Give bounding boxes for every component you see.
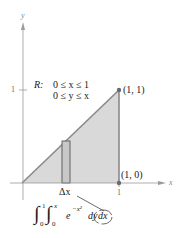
x-axis-arrow-icon — [158, 181, 166, 185]
y-axis-label: y — [21, 12, 25, 20]
region-inequality-y: 0 ≤ y ≤ x — [53, 91, 89, 101]
dx-differential: dx — [98, 211, 107, 221]
representative-rectangle — [62, 141, 70, 183]
point-1-0 — [117, 181, 121, 185]
region-label: R: — [34, 80, 43, 90]
x-tick-label: 1 — [117, 189, 121, 197]
delta-x-label: Δx — [59, 187, 70, 197]
y-axis-arrow-icon — [21, 22, 25, 30]
point-label-1-0: (1, 0) — [121, 170, 143, 180]
outer-lower-limit: 0 — [40, 221, 44, 228]
y-tick-label: 1 — [11, 86, 15, 94]
integral-sign-outer: ∫ — [34, 203, 39, 223]
double-integral: ∫ 1 0 ∫ x 0 e −x² dy dx — [34, 203, 124, 233]
integrand-exponent: −x² — [72, 206, 82, 213]
integrand-base: e — [66, 211, 70, 221]
point-1-1 — [117, 88, 121, 92]
region-inequality-x: 0 ≤ x ≤ 1 — [53, 80, 89, 90]
dy-differential: dy — [88, 211, 97, 221]
x-axis-label: x — [169, 179, 173, 187]
integral-sign-inner: ∫ — [46, 203, 51, 223]
point-label-1-1: (1, 1) — [123, 85, 145, 95]
inner-lower-limit: 0 — [52, 221, 56, 228]
outer-upper-limit: 1 — [42, 203, 46, 210]
inner-upper-limit: x — [54, 203, 57, 210]
